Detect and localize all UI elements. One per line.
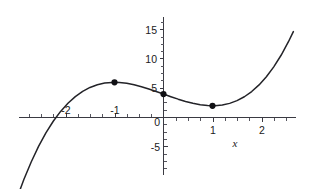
y-tick-label-15: 15: [145, 24, 157, 36]
x-tick-label-2: 2: [259, 124, 265, 136]
y-tick-label-neg5: -5: [151, 141, 160, 153]
data-point-y-intercept: [160, 91, 166, 97]
cubic-function-plot: 15 10 5 0 -5 -2 -1 1 2 x: [0, 0, 310, 189]
chart-figure: 15 10 5 0 -5 -2 -1 1 2 x: [0, 0, 310, 189]
data-point-local-minimum: [209, 103, 215, 109]
y-tick-label-10: 10: [145, 53, 157, 65]
x-tick-label-1: 1: [210, 124, 216, 136]
x-tick-label-neg1: -1: [110, 104, 119, 116]
y-tick-label-0: 0: [154, 116, 160, 128]
x-axis-title: x: [232, 137, 238, 149]
data-point-local-maximum: [111, 79, 117, 85]
y-tick-label-5: 5: [151, 82, 157, 94]
